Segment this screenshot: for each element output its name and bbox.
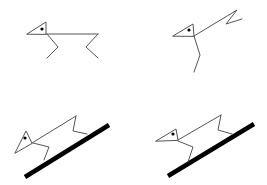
front-leg	[194, 36, 200, 72]
body-line	[194, 10, 242, 36]
eye-dot	[23, 136, 26, 139]
head-triangle	[173, 24, 194, 36]
figure-top-right	[173, 10, 242, 72]
eye-dot	[40, 27, 43, 30]
figure-bottom-left	[15, 116, 109, 177]
back-leg	[86, 34, 98, 58]
figure-top-left	[27, 22, 98, 58]
head-triangle	[15, 131, 32, 153]
front-leg	[33, 143, 49, 160]
eye-dot	[187, 28, 190, 31]
diagram-canvas	[0, 0, 267, 185]
ground-line	[25, 125, 109, 177]
back-leg	[73, 116, 87, 134]
ground-line	[168, 124, 254, 176]
front-leg	[178, 141, 193, 162]
eye-dot	[171, 132, 174, 135]
head-triangle	[156, 129, 178, 141]
figure-bottom-right	[156, 115, 254, 176]
back-leg	[218, 115, 232, 134]
front-leg	[47, 34, 58, 58]
body-line	[178, 115, 221, 140]
body-line	[32, 116, 76, 143]
